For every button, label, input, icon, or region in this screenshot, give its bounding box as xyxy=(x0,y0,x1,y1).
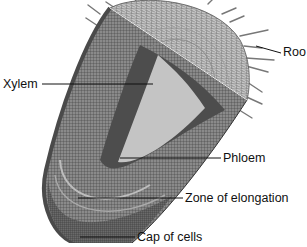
label-xylem: Xylem xyxy=(3,78,38,91)
label-cap-of-cells: Cap of cells xyxy=(137,231,202,244)
leader-line-root-hairs xyxy=(256,46,281,53)
label-phloem: Phloem xyxy=(223,152,265,165)
label-zone-of-elongation: Zone of elongation xyxy=(185,192,289,205)
label-root-hairs: Roo xyxy=(283,46,306,59)
